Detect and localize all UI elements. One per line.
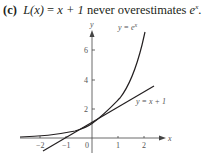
exp-curve-label: y = ex xyxy=(117,22,138,32)
y-tick-label: 6 xyxy=(84,46,88,55)
y-axis xyxy=(92,34,95,153)
y-axis-label: y xyxy=(89,20,94,29)
x-tick-label: −1 xyxy=(62,141,71,150)
y-tick-label: 2 xyxy=(84,105,88,114)
x-tick-label: 2 xyxy=(142,141,146,150)
exp-curve xyxy=(20,32,145,137)
y-tick-label: 4 xyxy=(84,76,88,85)
x-tick-label: 0 xyxy=(85,141,89,150)
x-tick-label: 1 xyxy=(116,141,120,150)
y-axis-arrow-icon xyxy=(90,30,95,37)
graph: −2 −1 0 1 2 2 4 6 x y y = ex y = x + 1 xyxy=(0,0,204,153)
x-axis-arrow-icon xyxy=(159,136,166,141)
x-tick-label: −2 xyxy=(36,141,45,150)
tangent-line xyxy=(43,86,154,151)
tangent-line-label: y = x + 1 xyxy=(135,97,166,106)
x-axis-label: x xyxy=(167,134,172,143)
